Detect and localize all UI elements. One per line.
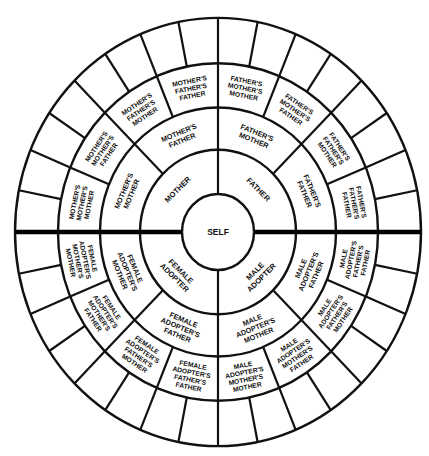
sector-label-gen2: MOTHER'SFATHER [160, 121, 202, 151]
sector-label-gen3: FEMALEADOPTER'SMOTHER'SFATHER [80, 289, 126, 338]
gen3-divider [70, 280, 109, 297]
sector-label-gen1: MALEADOPTER [239, 255, 278, 294]
self-label: SELF [207, 227, 229, 237]
gen4-divider [279, 388, 295, 430]
gen3-divider [157, 76, 173, 117]
gen4-divider [307, 372, 331, 410]
sector-label-gen3: MOTHER'SMOTHER'SMOTHER [68, 184, 96, 223]
gen3-divider [70, 167, 109, 184]
gen2-divider [135, 290, 163, 320]
gen4-divider [331, 81, 361, 113]
sector-label-gen3: MALEADOPTER'SFATHER'SFATHER [336, 238, 372, 282]
sector-label-gen2: FATHER'SMOTHER [236, 122, 275, 151]
gen4-divider [74, 351, 104, 383]
sector-label-gen2: MOTHER'SMOTHER [112, 172, 142, 214]
sector-label-line: MOTHER [163, 174, 193, 204]
sector-label-gen3: FEMALEADOPTER'SMOTHER'SMOTHER [64, 239, 100, 283]
gen4-divider [140, 388, 156, 430]
sector-label-gen3: MALEADOPTER'SMOTHER'SMOTHER [223, 358, 267, 394]
sector-label-gen1: FATHER [245, 176, 273, 204]
sector-label-gen3: MALEADOPTER'SFATHER'SMOTHER [311, 289, 357, 338]
gen2-divider [135, 144, 163, 174]
sector-label-gen3: MOTHER'SFATHER'SMOTHER [120, 91, 162, 129]
sector-label-gen3: FATHER'SMOTHER'SMOTHER [226, 74, 265, 102]
gen2-divider [273, 144, 301, 174]
sector-label-gen3: MOTHER'SFATHER'SFATHER [172, 74, 211, 102]
gen4-divider [249, 398, 257, 442]
gen4-divider [307, 54, 331, 92]
gen4-divider [19, 190, 61, 199]
gen4-divider [279, 34, 295, 76]
sector-label-gen2: FATHER'SFATHER [294, 173, 323, 212]
sector-label-gen1: MOTHER [163, 174, 193, 204]
sector-label-gen3: MOTHER'SMOTHER'SFATHER [84, 129, 122, 171]
sector-label-gen3: FATHER'SFATHER'SMOTHER [316, 131, 352, 170]
gen4-divider [375, 265, 417, 274]
gen4-divider [140, 34, 156, 76]
gen3-divider [327, 167, 366, 184]
sector-label-gen3: FEMALEADOPTER'SFATHER'SFATHER [169, 358, 213, 394]
gen4-divider [19, 265, 61, 274]
gen4-divider [49, 113, 85, 138]
gen4-divider [351, 113, 387, 138]
gen2-divider [273, 290, 301, 320]
gen4-divider [105, 372, 129, 410]
gen4-divider [178, 398, 186, 442]
gen3-divider [263, 76, 279, 117]
gen3-divider [157, 347, 173, 388]
gen4-divider [366, 150, 406, 167]
gen4-divider [49, 326, 85, 351]
gen3-divider [327, 280, 366, 297]
gen3-divider [263, 347, 279, 388]
gen4-divider [249, 22, 257, 66]
sector-label-gen3: MALEADOPTER'SMOTHER'SFATHER [271, 331, 320, 377]
gen4-divider [375, 190, 417, 199]
pedigree-wheel-chart: SELF FATHERMALEADOPTERFEMALEADOPTERMOTHE… [0, 0, 429, 456]
gen4-divider [366, 297, 406, 314]
gen4-divider [30, 297, 70, 314]
gen4-divider [178, 22, 186, 66]
gen4-divider [74, 81, 104, 113]
sector-label-gen3: FATHER'SFATHER'SFATHER [340, 185, 368, 221]
sector-label-gen1: FEMALEADOPTER [158, 255, 197, 294]
sector-label-line: FATHER [245, 176, 273, 204]
gen4-divider [331, 351, 361, 383]
gen4-divider [351, 326, 387, 351]
gen4-divider [105, 54, 129, 92]
sector-label-gen3: FATHER'SMOTHER'SFATHER [275, 91, 317, 129]
gen4-divider [30, 150, 70, 167]
